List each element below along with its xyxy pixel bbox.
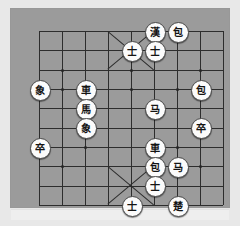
piece-elephant-c5[interactable]: 象 [76,118,97,139]
piece-soldier-a6[interactable]: 卒 [30,138,51,159]
piece-label: 士 [127,46,137,56]
piece-label: 士 [127,201,137,211]
intersection-dot [176,146,179,149]
intersection-dot [176,88,179,91]
piece-label: 包 [173,27,183,37]
piece-label: 象 [81,124,91,134]
piece-horse-f4[interactable]: 马 [145,99,166,120]
piece-cannon-f7[interactable]: 包 [145,157,166,178]
intersection-dot [61,69,64,72]
intersection-dot [199,165,202,168]
piece-horse-c4[interactable]: 馬 [76,99,97,120]
intersection-dot [84,146,87,149]
grid-line-vertical [108,31,109,205]
piece-label: 卒 [196,124,206,134]
piece-soldier-h5[interactable]: 卒 [191,118,212,139]
piece-han-cannon-right[interactable]: 包 [168,22,189,43]
piece-chariot-c3[interactable]: 車 [76,80,97,101]
piece-label: 楚 [173,201,183,211]
piece-cho-guard-left[interactable]: 士 [122,196,143,217]
piece-label: 車 [150,143,160,153]
piece-cho-guard-mid[interactable]: 士 [145,176,166,197]
piece-label: 漢 [150,27,160,37]
grid-line-vertical [62,31,63,205]
piece-label: 士 [150,46,160,56]
piece-label: 車 [81,85,91,95]
grid-line-vertical [39,31,40,205]
piece-chariot-f6[interactable]: 車 [145,138,166,159]
piece-label: 包 [196,85,206,95]
piece-label: 馬 [81,104,91,114]
piece-cho-king[interactable]: 楚 [168,196,189,217]
piece-han-guard-left[interactable]: 士 [122,41,143,62]
intersection-dot [130,88,133,91]
piece-label: 卒 [35,143,45,153]
janggi-board[interactable]: 漢包士士象車包馬马象卒卒車包马士士楚 [11,9,229,207]
screenshot-root: 漢包士士象車包馬马象卒卒車包马士士楚 [0,0,240,226]
piece-han-guard-right[interactable]: 士 [145,41,166,62]
intersection-dot [61,88,64,91]
intersection-dot [199,69,202,72]
board-shadow-strip [11,209,229,220]
piece-label: 士 [150,182,160,192]
board-grid: 漢包士士象車包馬马象卒卒車包马士士楚 [39,31,223,205]
intersection-dot [61,165,64,168]
piece-label: 包 [150,162,160,172]
piece-label: 马 [150,104,160,114]
grid-line-vertical [223,31,224,205]
piece-horse-g7[interactable]: 马 [168,157,189,178]
piece-elephant-a3[interactable]: 象 [30,80,51,101]
piece-han-king[interactable]: 漢 [145,22,166,43]
piece-label: 象 [35,85,45,95]
piece-label: 马 [173,162,183,172]
piece-cannon-h3[interactable]: 包 [191,80,212,101]
intersection-dot [130,69,133,72]
grid-line-vertical [177,31,178,205]
